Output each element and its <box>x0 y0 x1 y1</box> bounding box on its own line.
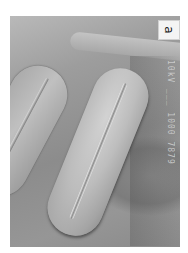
panel-label-text: a <box>163 26 175 33</box>
panel-label: a <box>158 20 180 40</box>
furrow <box>69 83 127 220</box>
scale-bar-text: 10kV ___ 1000 7879 <box>163 60 175 230</box>
furrow <box>10 78 49 185</box>
sem-micrograph <box>10 16 180 247</box>
